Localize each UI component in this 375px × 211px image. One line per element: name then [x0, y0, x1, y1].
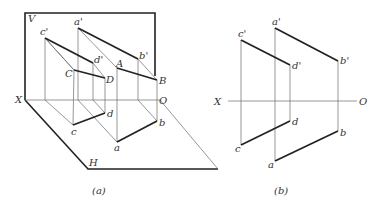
label-b-prime-b: b' [340, 55, 349, 66]
label-d-b: d [292, 116, 298, 127]
line-ab-prime [78, 28, 138, 59]
label-C: C [65, 68, 73, 79]
label-V: V [28, 13, 37, 24]
label-b-a: b [159, 117, 165, 128]
label-a-prime-b: a' [272, 16, 281, 27]
figure-a: V H X O c' a' b' d' C D A B c d a b (a) [14, 13, 218, 196]
label-B: B [158, 75, 166, 86]
label-b-prime-a: b' [139, 50, 148, 61]
label-a-a: a [114, 142, 120, 153]
line-ab [117, 121, 157, 142]
label-d-prime-b: d' [292, 60, 301, 71]
line-cd [73, 113, 105, 125]
label-c-a: c [71, 126, 77, 137]
label-O-a: O [159, 95, 167, 106]
label-X-b: X [213, 96, 222, 107]
figure-b: X O c' a' b' d' c d a b (b) [213, 16, 367, 196]
line-cd-b [241, 121, 290, 145]
line-cd-prime [45, 38, 93, 63]
line-cd-prime-b [241, 40, 290, 65]
label-H: H [88, 157, 98, 168]
line-ab-prime-b [275, 28, 338, 61]
h-plane-right-edge [160, 100, 218, 169]
label-d-a: d [107, 108, 113, 119]
caption-a: (a) [92, 185, 106, 196]
line-CD [74, 70, 105, 78]
label-O-b: O [359, 96, 367, 107]
label-b-b: b [340, 127, 346, 138]
label-c-b: c [235, 143, 241, 154]
line-ab-b [275, 131, 338, 161]
label-A: A [115, 58, 123, 69]
label-d-prime-a: d' [94, 54, 103, 65]
label-X-a: X [14, 94, 23, 105]
label-c-prime-b: c' [238, 28, 246, 39]
label-c-prime-a: c' [40, 26, 48, 37]
caption-b: (b) [274, 185, 288, 196]
label-a-b: a [268, 159, 274, 170]
label-a-prime-a: a' [74, 16, 83, 27]
line-AB [117, 68, 157, 80]
label-D: D [105, 74, 114, 85]
projection-diagram: V H X O c' a' b' d' C D A B c d a b (a) … [0, 0, 375, 211]
